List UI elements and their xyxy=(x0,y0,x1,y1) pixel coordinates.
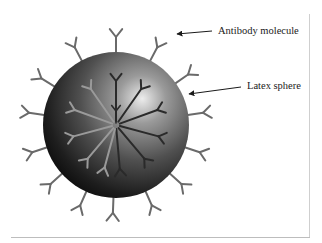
antibody-molecule-label: Antibody molecule xyxy=(218,26,299,37)
antibody-molecule-icon xyxy=(110,29,122,56)
figure-frame-right xyxy=(309,14,310,238)
antibody-molecule-icon xyxy=(107,194,119,221)
antibody-molecule-icon xyxy=(144,188,161,215)
antibody-molecule-icon xyxy=(41,171,65,194)
antibody-molecule-icon xyxy=(167,171,191,194)
antibody-molecule-icon xyxy=(23,146,51,160)
latex-arrow-icon xyxy=(189,87,241,94)
antibody-molecule-icon xyxy=(148,38,166,65)
antibody-latex-diagram: Antibody molecule Latex sphere xyxy=(0,0,322,243)
antibody-molecule-icon xyxy=(182,146,210,160)
antibody-arrow-icon xyxy=(177,31,212,34)
figure-frame-bottom xyxy=(11,237,310,238)
antibody-molecule-icon xyxy=(66,38,84,65)
antibody-molecule-icon xyxy=(71,188,88,215)
antibody-molecule-icon xyxy=(31,69,57,88)
antibody-molecule-icon xyxy=(173,65,199,85)
latex-sphere-label: Latex sphere xyxy=(247,81,301,92)
